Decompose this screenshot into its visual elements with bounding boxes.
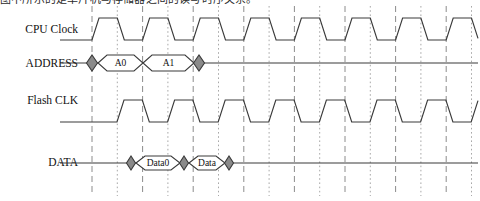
- bus-markers-group: A0A1Data0Data: [87, 55, 234, 170]
- timing-diagram-svg: CPU ClockADDRESSFlash CLKDATA A0A1Data0D…: [0, 0, 480, 201]
- signal-label-cpu-clock: CPU Clock: [25, 23, 78, 35]
- address-bubble-a1-text: A1: [163, 58, 175, 68]
- data-bubble-data1-text: Data: [198, 158, 217, 168]
- data-diamond-3: [225, 156, 234, 170]
- data-bubble-data0-text: Data0: [147, 158, 170, 168]
- timing-diagram-figure: 图中所示的是单片机与存储器之间的读写时序关系。 CPU ClockADDRESS…: [0, 0, 480, 201]
- address-diamond-start: [87, 55, 98, 71]
- data-diamond-1: [127, 156, 136, 170]
- signal-label-flash-clk: Flash CLK: [27, 94, 78, 106]
- signal-labels-group: CPU ClockADDRESSFlash CLKDATA: [25, 23, 78, 168]
- address-diamond-end: [194, 55, 205, 71]
- address-bubble-a0-text: A0: [115, 58, 127, 68]
- signal-label-data: DATA: [48, 156, 78, 168]
- data-diamond-2: [180, 156, 189, 170]
